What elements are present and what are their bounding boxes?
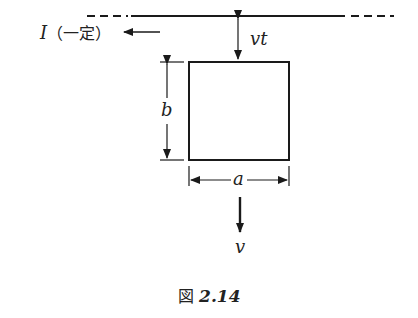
caption-number: 2.14	[199, 286, 240, 306]
height-label: b	[161, 99, 173, 120]
distance-label: vt	[250, 28, 267, 49]
width-label: a	[233, 168, 244, 189]
diagram-canvas	[0, 0, 418, 318]
current-label: I（一定）	[40, 20, 111, 44]
velocity-label: v	[235, 236, 245, 257]
rectangular-loop	[189, 62, 289, 160]
current-note: （一定）	[47, 24, 111, 43]
figure-caption: 図 2.14	[178, 283, 241, 307]
caption-prefix: 図	[178, 287, 194, 306]
